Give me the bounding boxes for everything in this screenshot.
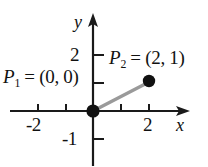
x-tick-label-2: 2 bbox=[143, 115, 152, 134]
y-tick-label-2: 2 bbox=[70, 45, 79, 64]
p1-symbol: P bbox=[3, 66, 14, 87]
x-axis-label: x bbox=[176, 116, 184, 134]
point-p1 bbox=[86, 104, 99, 117]
point-label-p1: P1 = (0, 0) bbox=[3, 67, 79, 86]
point-label-p2: P2 = (2, 1) bbox=[109, 48, 185, 67]
y-axis-label: y bbox=[74, 13, 82, 31]
p2-symbol: P bbox=[109, 47, 120, 68]
p2-coordinates: = (2, 1) bbox=[126, 47, 185, 68]
p1-coordinates: = (0, 0) bbox=[20, 66, 79, 87]
x-tick-label-minus2: -2 bbox=[26, 115, 41, 134]
y-tick-label-minus1: -1 bbox=[62, 129, 77, 148]
point-p2 bbox=[143, 75, 155, 87]
p1-subscript: 1 bbox=[15, 77, 21, 90]
p2-subscript: 2 bbox=[121, 58, 127, 71]
coordinate-plane-figure: y x 2 -1 -2 2 P1 = (0, 0) P2 = (2, 1) bbox=[0, 0, 208, 167]
